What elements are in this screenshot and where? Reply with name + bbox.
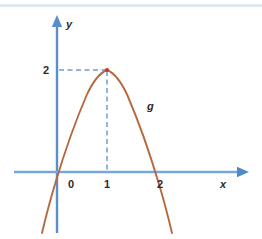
vertex-point-marker xyxy=(105,68,109,72)
y-axis-arrowhead xyxy=(52,15,62,27)
coordinate-plane: 2 0 1 2 y x g xyxy=(0,0,262,239)
x-axis-arrowhead xyxy=(237,167,249,177)
y-axis-label: y xyxy=(65,18,73,30)
y-tick-label-2: 2 xyxy=(43,64,49,76)
x-tick-label-2: 2 xyxy=(157,178,163,190)
x-axis-label: x xyxy=(219,178,227,190)
x-tick-label-1: 1 xyxy=(104,178,110,190)
graph-figure: 2 0 1 2 y x g xyxy=(0,0,262,239)
x-tick-label-0: 0 xyxy=(68,178,74,190)
curve-label-g: g xyxy=(146,100,154,112)
